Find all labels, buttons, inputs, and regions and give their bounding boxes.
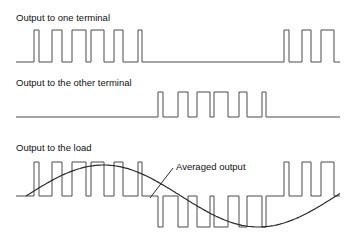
waveform-other-terminal <box>16 92 340 117</box>
waveform-diagram <box>0 0 357 242</box>
annotation-leader-line <box>150 168 173 198</box>
waveform-one-terminal <box>16 30 340 62</box>
